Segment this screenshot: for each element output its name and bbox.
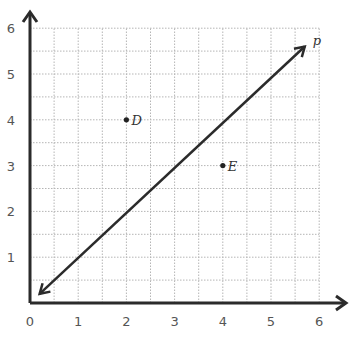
point-label-D: D bbox=[130, 113, 142, 128]
coordinate-plane: 0123456123456 p DE bbox=[0, 0, 358, 341]
lines: p bbox=[40, 33, 322, 294]
x-tick-label: 1 bbox=[74, 314, 82, 329]
point-D bbox=[124, 117, 129, 122]
y-tick-label: 5 bbox=[7, 67, 15, 82]
y-tick-label: 3 bbox=[7, 159, 15, 174]
point-label-E: E bbox=[227, 159, 238, 174]
x-tick-label: 2 bbox=[122, 314, 130, 329]
x-tick-label: 6 bbox=[315, 314, 323, 329]
points: DE bbox=[124, 113, 238, 174]
x-tick-label: 5 bbox=[267, 314, 275, 329]
x-tick-label: 0 bbox=[26, 314, 34, 329]
y-tick-label: 2 bbox=[7, 204, 15, 219]
line-label-p: p bbox=[313, 33, 322, 48]
x-tick-label: 3 bbox=[170, 314, 178, 329]
y-tick-label: 1 bbox=[7, 250, 15, 265]
point-E bbox=[220, 163, 225, 168]
y-tick-label: 6 bbox=[7, 21, 15, 36]
x-tick-label: 4 bbox=[219, 314, 227, 329]
y-tick-label: 4 bbox=[7, 113, 15, 128]
